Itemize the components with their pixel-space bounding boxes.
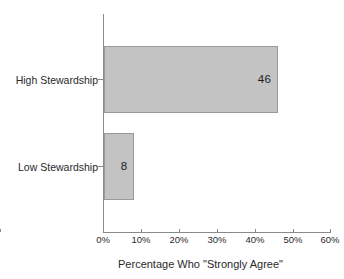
- y-axis-label-high-stewardship: High Stewardship: [16, 75, 98, 86]
- x-axis-tick: [103, 229, 104, 232]
- x-axis-tick-label: 20%: [159, 235, 199, 245]
- x-axis-tick-label: 40%: [235, 235, 275, 245]
- x-axis-line: [103, 232, 331, 233]
- y-axis-tick: [98, 79, 103, 80]
- x-axis-tick: [179, 229, 180, 232]
- x-axis-tick-label: 10%: [121, 235, 161, 245]
- bar-low-stewardship: 8: [104, 133, 134, 200]
- y-axis-tick: [98, 166, 103, 167]
- y-axis-label-low-stewardship: Low Stewardship: [18, 162, 98, 173]
- x-axis-tick: [330, 229, 331, 232]
- x-axis-tick: [217, 229, 218, 232]
- x-axis-tick: [255, 229, 256, 232]
- bar-value-label: 8: [121, 161, 128, 173]
- x-axis-tick-label: 30%: [197, 235, 237, 245]
- bar-value-label: 46: [258, 74, 271, 86]
- x-axis-tick: [0, 229, 1, 232]
- x-axis-tick-label: 60%: [310, 235, 344, 245]
- x-axis-tick: [141, 229, 142, 232]
- x-axis-tick-label: 0%: [83, 235, 123, 245]
- bar-high-stewardship: 46: [104, 46, 278, 113]
- x-axis-title: Percentage Who "Strongly Agree": [0, 259, 339, 270]
- x-axis-tick-label: 50%: [273, 235, 313, 245]
- x-axis-tick: [293, 229, 294, 232]
